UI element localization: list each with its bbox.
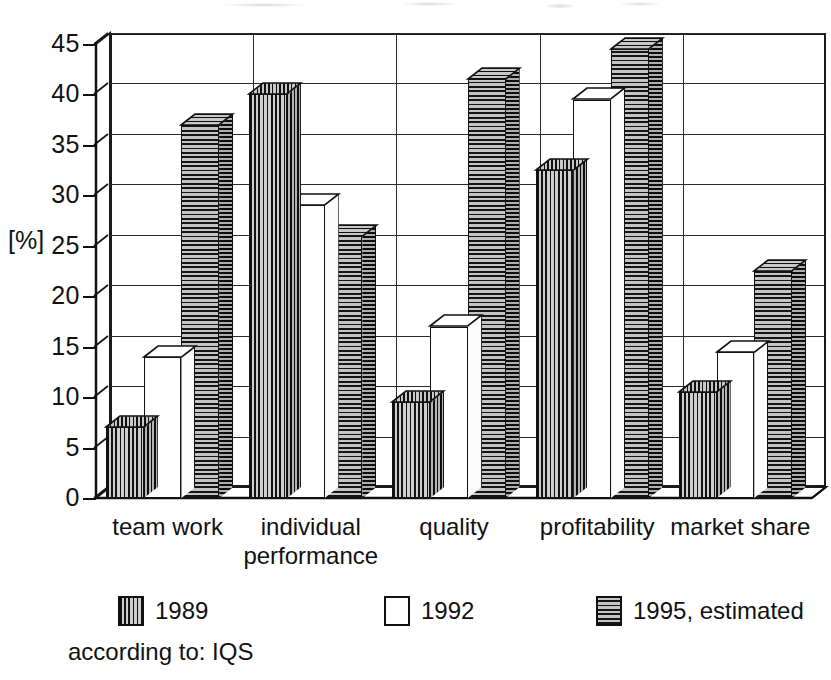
- legend-swatch-icon: [118, 596, 144, 626]
- bar: [536, 44, 574, 498]
- y-tick-label: 45: [24, 31, 80, 56]
- bar-side-face: [430, 391, 444, 498]
- legend-item: 1989: [118, 596, 208, 626]
- bar-side-face: [287, 83, 301, 498]
- bar-side-face: [181, 346, 195, 498]
- y-tick-depth-notch: [94, 334, 114, 350]
- category-label: market share: [655, 512, 826, 541]
- bar-side-face: [649, 38, 663, 498]
- legend-item: 1995, estimated: [596, 596, 804, 626]
- y-tick-depth-notch: [94, 233, 114, 249]
- bar-side-face: [792, 260, 806, 498]
- chart-legend: 198919921995, estimated: [0, 596, 831, 636]
- y-axis-unit-label: [%]: [8, 228, 44, 253]
- bar-side-face: [611, 89, 625, 499]
- bar-front-face: [249, 94, 287, 498]
- bar-front-face: [679, 392, 717, 498]
- bar-side-face: [717, 381, 731, 498]
- y-tick-label: 30: [24, 182, 80, 207]
- legend-swatch-icon: [384, 596, 410, 626]
- bar-chart-figure: 051015202530354045 [%] team workindividu…: [0, 0, 831, 680]
- source-note: according to: IQS: [68, 638, 253, 666]
- bar: [679, 44, 717, 498]
- y-tick-depth-notch: [94, 81, 114, 97]
- bar-side-face: [754, 341, 768, 498]
- legend-label: 1989: [155, 597, 208, 625]
- y-tick-depth-notch: [94, 31, 114, 47]
- plot-area: [96, 44, 812, 498]
- y-tick-label: 15: [24, 334, 80, 359]
- legend-item: 1992: [384, 596, 474, 626]
- y-tick-depth-notch: [94, 283, 114, 299]
- bar-side-face: [468, 316, 482, 499]
- bar-side-face: [219, 114, 233, 498]
- bar: [106, 44, 144, 498]
- y-tick-label: 5: [24, 435, 80, 460]
- bar-side-face: [573, 159, 587, 498]
- gridline: [110, 33, 826, 34]
- legend-label: 1995, estimated: [633, 597, 804, 625]
- y-tick-depth-notch: [94, 182, 114, 198]
- bar-front-face: [536, 170, 574, 498]
- bar: [392, 44, 430, 498]
- y-tick-depth-notch: [94, 435, 114, 451]
- y-tick-label: 35: [24, 132, 80, 157]
- legend-label: 1992: [421, 597, 474, 625]
- legend-swatch-icon: [596, 596, 622, 626]
- y-tick-label: 0: [24, 485, 80, 510]
- y-tick-depth-notch: [94, 384, 114, 400]
- bar-side-face: [325, 194, 339, 498]
- bar: [249, 44, 287, 498]
- y-tick-depth-notch: [94, 485, 114, 501]
- bar-front-face: [392, 402, 430, 498]
- bar-side-face: [506, 68, 520, 498]
- y-tick-depth-notch: [94, 132, 114, 148]
- y-tick-label: 20: [24, 283, 80, 308]
- y-tick-label: 10: [24, 384, 80, 409]
- y-tick-label: 40: [24, 81, 80, 106]
- bar-side-face: [144, 416, 158, 498]
- bar-side-face: [362, 225, 376, 498]
